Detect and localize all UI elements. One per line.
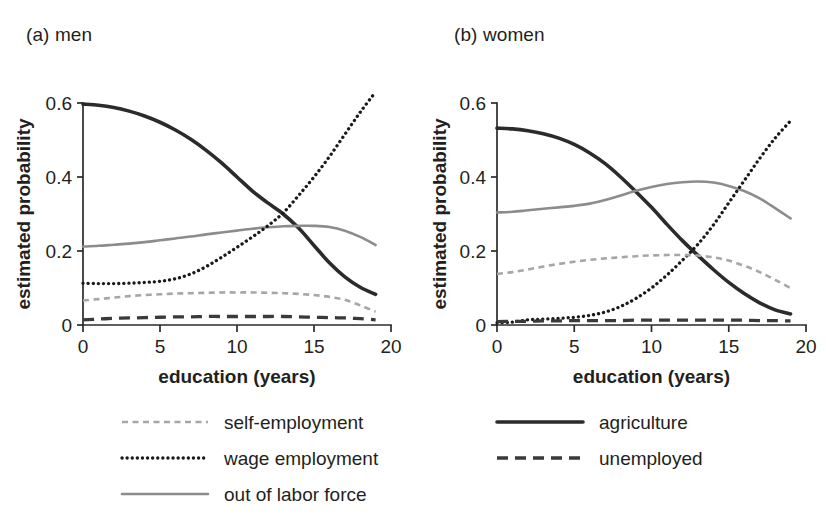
x-tick-label: 0 [492,336,503,357]
x-axis-title: education (years) [573,366,730,387]
series-line-out-of-labor-force [83,226,376,247]
legend-item-label: out of labor force [224,485,367,504]
y-axis-title: estimated probability [13,118,34,310]
x-tick-label: 20 [795,336,816,357]
x-axis-title: education (years) [158,366,315,387]
legend-column-right: agricultureunemployed [495,404,815,476]
legend-item-label: agriculture [599,413,688,432]
x-tick-label: 15 [718,336,739,357]
y-tick-label: 0 [475,315,486,336]
legend-swatch-solid-thin [120,486,210,502]
legend-item-out-of-labor-force[interactable]: out of labor force [120,476,450,512]
legend-item-label: self-employment [224,413,363,432]
y-tick-label: 0.4 [46,167,73,188]
series-line-wage-employment [497,121,791,323]
legend-item-agriculture[interactable]: agriculture [495,404,815,440]
legend-swatch-solid-thick [495,414,585,430]
legend-item-unemployed[interactable]: unemployed [495,440,815,476]
series-line-agriculture [83,104,376,294]
y-axis-title: estimated probability [429,118,450,310]
figure-root: (a) men 00.20.40.605101520education (yea… [0,0,826,526]
panel-women: (b) women 00.20.40.605101520education (y… [414,0,826,400]
series-line-self-employment [497,255,791,288]
y-tick-label: 0.6 [460,93,486,114]
series-line-wage-employment [83,92,376,284]
y-tick-label: 0.2 [460,241,486,262]
y-tick-label: 0.4 [460,167,487,188]
series-line-self-employment [83,292,376,311]
legend-swatch-short-dash [120,414,210,430]
chart-men: 00.20.40.605101520education (years)estim… [0,0,420,400]
y-tick-label: 0.6 [46,93,72,114]
legend-item-label: unemployed [599,449,703,468]
x-tick-label: 10 [641,336,662,357]
x-tick-label: 20 [380,336,401,357]
x-tick-label: 5 [569,336,580,357]
legend-item-self-employment[interactable]: self-employment [120,404,450,440]
legend-item-wage-employment[interactable]: wage employment [120,440,450,476]
chart-women: 00.20.40.605101520education (years)estim… [414,0,826,400]
y-tick-label: 0.2 [46,241,72,262]
x-tick-label: 0 [78,336,89,357]
x-tick-label: 10 [226,336,247,357]
y-tick-label: 0 [61,315,72,336]
legend-item-label: wage employment [224,449,378,468]
panels-container: (a) men 00.20.40.605101520education (yea… [0,0,826,400]
legend-swatch-long-dash [495,450,585,466]
x-tick-label: 5 [155,336,166,357]
legend-swatch-dotted [120,450,210,466]
legend-column-left: self-employmentwage employmentout of lab… [120,404,450,512]
panel-men: (a) men 00.20.40.605101520education (yea… [0,0,420,400]
chart-legend: self-employmentwage employmentout of lab… [0,404,826,526]
series-line-agriculture [497,128,791,314]
x-tick-label: 15 [303,336,324,357]
series-line-unemployed [83,316,376,319]
series-line-unemployed [497,320,791,322]
